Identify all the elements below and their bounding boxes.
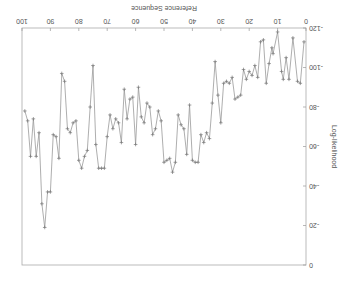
data-point-marker: [276, 30, 280, 34]
data-point-marker: [83, 155, 87, 159]
data-point-marker: [142, 121, 146, 125]
data-point-marker: [176, 113, 180, 117]
data-point-marker: [86, 149, 90, 153]
x-tick-label: 60: [132, 18, 140, 25]
plot-frame: [22, 28, 306, 265]
data-point-marker: [171, 170, 175, 174]
data-point-marker: [174, 161, 178, 165]
data-point-marker: [32, 117, 36, 121]
data-point-marker: [219, 121, 223, 125]
x-tick-label: 50: [160, 18, 168, 25]
data-point-marker: [205, 131, 209, 135]
data-point-marker: [210, 101, 214, 105]
data-point-marker: [40, 202, 44, 206]
data-point-marker: [134, 143, 138, 147]
data-point-marker: [105, 135, 109, 139]
data-point-marker: [29, 155, 33, 159]
data-point-marker: [159, 119, 163, 123]
data-point-marker: [120, 141, 124, 145]
data-point-marker: [80, 166, 84, 170]
data-point-marker: [267, 62, 271, 66]
x-tick-label: 80: [75, 18, 83, 25]
data-point-marker: [281, 78, 285, 82]
data-point-marker: [125, 117, 129, 121]
y-tick-label: -80: [309, 104, 319, 111]
data-point-marker: [202, 141, 206, 145]
data-point-marker: [88, 105, 92, 109]
data-point-marker: [188, 103, 192, 107]
data-point-marker: [151, 133, 155, 137]
x-axis-label: Reference Sequence: [131, 4, 197, 12]
y-tick-label: 0: [309, 262, 313, 269]
data-point-marker: [284, 56, 288, 60]
data-point-marker: [157, 109, 161, 113]
data-point-marker: [60, 72, 64, 76]
x-tick-label: 30: [217, 18, 225, 25]
data-point-marker: [185, 153, 189, 157]
data-point-marker: [37, 131, 41, 135]
data-point-marker: [91, 64, 95, 68]
data-point-marker: [57, 157, 61, 161]
data-point-marker: [23, 109, 27, 113]
data-point-marker: [111, 127, 115, 131]
x-tick-label: 70: [103, 18, 111, 25]
data-point-marker: [122, 87, 126, 91]
data-point-marker: [270, 46, 274, 50]
y-tick-label: -120: [309, 25, 323, 32]
y-tick-label: -60: [309, 143, 319, 150]
x-tick-label: 90: [46, 18, 54, 25]
y-tick-label: -20: [309, 222, 319, 229]
x-tick-label: 40: [188, 18, 196, 25]
data-point-marker: [271, 52, 275, 56]
data-point-marker: [46, 190, 50, 194]
data-series: [23, 30, 306, 229]
chart-figure: 0102030405060708090100-120-100-80-60-40-…: [0, 0, 346, 284]
data-point-marker: [256, 76, 260, 80]
data-point-marker: [208, 137, 212, 141]
data-point-marker: [137, 85, 141, 89]
x-tick-label: 20: [245, 18, 253, 25]
data-point-marker: [97, 166, 101, 170]
data-point-marker: [63, 80, 67, 84]
data-point-marker: [26, 119, 30, 123]
data-point-marker: [77, 159, 81, 163]
x-tick-label: 100: [16, 18, 28, 25]
data-point-marker: [213, 60, 217, 64]
y-tick-label: -100: [309, 64, 323, 71]
data-point-marker: [287, 78, 291, 82]
line-chart: 0102030405060708090100-120-100-80-60-40-…: [0, 0, 346, 284]
data-point-marker: [253, 64, 257, 68]
y-axis-label: Log-likelihood: [330, 125, 338, 168]
data-point-marker: [216, 93, 220, 97]
series-line: [25, 32, 304, 228]
data-point-marker: [245, 78, 249, 82]
data-point-marker: [264, 82, 268, 86]
data-point-marker: [154, 127, 158, 131]
data-point-marker: [199, 133, 203, 137]
data-point-marker: [43, 226, 47, 230]
data-point-marker: [242, 68, 246, 72]
x-tick-label: 0: [304, 18, 308, 25]
data-point-marker: [280, 70, 284, 74]
data-point-marker: [34, 155, 38, 159]
data-point-marker: [302, 40, 306, 44]
data-point-marker: [230, 76, 234, 80]
data-point-marker: [108, 113, 112, 117]
axes: 0102030405060708090100-120-100-80-60-40-…: [16, 18, 323, 269]
data-point-marker: [291, 36, 295, 40]
data-point-marker: [94, 143, 98, 147]
x-tick-label: 10: [274, 18, 282, 25]
data-point-marker: [139, 115, 143, 119]
y-tick-label: -40: [309, 183, 319, 190]
